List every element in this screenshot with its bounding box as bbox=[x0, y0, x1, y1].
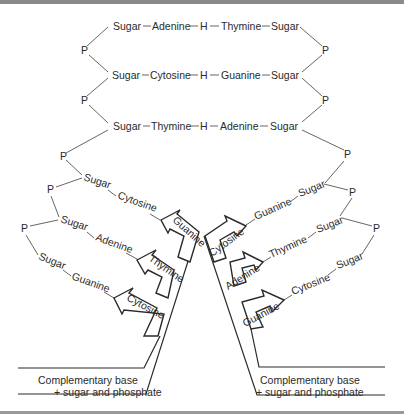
phosphate-label: P bbox=[322, 44, 329, 56]
base-label: Adenine bbox=[152, 20, 191, 32]
source-line-2: + sugar and phosphate bbox=[54, 386, 162, 398]
base-label: Thymine bbox=[221, 20, 261, 32]
base-label: Adenine bbox=[94, 231, 134, 256]
right-source-label: Complementary base + sugar and phosphate bbox=[256, 374, 364, 398]
phosphate-label: P bbox=[373, 222, 380, 234]
phosphate-label: P bbox=[322, 94, 329, 106]
sugar-label: Sugar bbox=[296, 177, 327, 199]
sugar-label: Sugar bbox=[37, 250, 68, 272]
helix-row-2: Sugar Cytosine H Guanine Sugar bbox=[112, 69, 300, 81]
right-strand: Sugar Guanine P Sugar Thymine P Sugar Cy… bbox=[246, 161, 380, 300]
phosphate-label: P bbox=[344, 148, 351, 160]
base-label: Thymine bbox=[267, 232, 309, 259]
helix-row-1: Sugar Adenine H Thymine Sugar bbox=[113, 20, 300, 32]
sugar-label: Sugar bbox=[334, 249, 365, 271]
base-label: Adenine bbox=[220, 120, 259, 132]
phosphate-label: P bbox=[349, 186, 356, 198]
phosphate-label: P bbox=[21, 222, 28, 234]
left-strand: Sugar Cytosine P Sugar Adenine P Sugar G… bbox=[21, 160, 160, 298]
source-line-1: Complementary base bbox=[38, 374, 138, 386]
phosphate-label: P bbox=[47, 183, 54, 195]
dna-replication-diagram: Sugar Adenine H Thymine Sugar Sugar Cyto… bbox=[0, 0, 404, 419]
sugar-label: Sugar bbox=[271, 69, 300, 81]
sugar-label: Sugar bbox=[113, 20, 142, 32]
sugar-label: Sugar bbox=[314, 213, 345, 235]
sugar-label: Sugar bbox=[270, 120, 299, 132]
base-label: Guanine bbox=[221, 69, 261, 81]
base-label: Cytosine bbox=[116, 189, 159, 214]
sugar-label: Sugar bbox=[112, 69, 141, 81]
phosphate-label: P bbox=[81, 94, 88, 106]
base-label: Cytosine bbox=[150, 69, 191, 81]
sugar-label: Sugar bbox=[271, 20, 300, 32]
phosphate-label: P bbox=[81, 44, 88, 56]
base-label: Guanine bbox=[70, 270, 112, 295]
left-backbone: P P P bbox=[60, 27, 108, 162]
base-label: Cytosine bbox=[289, 270, 332, 296]
left-source-label: Complementary base + sugar and phosphate bbox=[38, 374, 162, 398]
source-line-1: Complementary base bbox=[260, 374, 360, 386]
right-backbone: P P P bbox=[300, 27, 351, 160]
sugar-label: Sugar bbox=[113, 120, 142, 132]
base-label: Thymine bbox=[151, 120, 191, 132]
hydrogen-bond-label: H bbox=[200, 69, 208, 81]
sugar-label: Sugar bbox=[82, 170, 113, 190]
hydrogen-bond-label: H bbox=[200, 20, 208, 32]
sugar-label: Sugar bbox=[59, 212, 90, 232]
base-label: Guanine bbox=[252, 195, 293, 222]
helix-row-3: Sugar Thymine H Adenine Sugar bbox=[113, 120, 299, 132]
source-line-2: + sugar and phosphate bbox=[256, 386, 364, 398]
hydrogen-bond-label: H bbox=[200, 120, 208, 132]
